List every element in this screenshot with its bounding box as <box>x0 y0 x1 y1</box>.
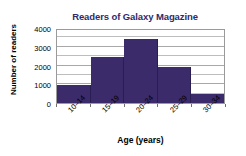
bar-series <box>57 30 224 103</box>
chart-container: Readers of Galaxy Magazine Number of rea… <box>0 0 246 156</box>
y-axis-title: Number of readers <box>9 17 18 103</box>
x-axis-title: Age (years) <box>56 135 225 145</box>
y-axis-tick-label: 3000 <box>34 43 51 52</box>
x-axis-tick-labels: 10–1415–1920–2425–2930–34 <box>56 106 225 132</box>
plot-area <box>56 29 225 104</box>
y-axis-tick-label: 0 <box>47 100 51 109</box>
chart-title: Readers of Galaxy Magazine <box>40 11 230 22</box>
bar <box>91 57 125 103</box>
y-axis-tick-label: 4000 <box>34 25 51 34</box>
x-axis-tick-mark <box>225 104 226 107</box>
y-axis-tick-labels: 01000200030004000 <box>22 29 54 104</box>
bar <box>124 39 158 103</box>
y-axis-tick-label: 2000 <box>34 62 51 71</box>
y-axis-tick-label: 1000 <box>34 81 51 90</box>
